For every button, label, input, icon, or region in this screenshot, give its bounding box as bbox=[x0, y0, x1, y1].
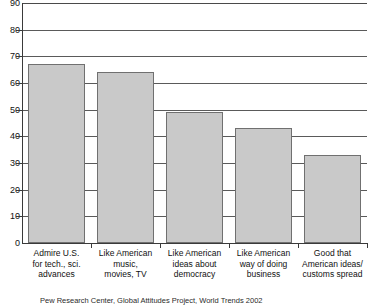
x-axis-category-label: Like Americanway of doingbusiness bbox=[229, 248, 298, 280]
x-axis-label-line: customs spread bbox=[298, 269, 367, 280]
y-axis-tick-label: 90 bbox=[2, 0, 20, 8]
y-axis-tick-mark bbox=[16, 56, 22, 57]
category-separator-tick bbox=[298, 243, 299, 248]
plot-area bbox=[22, 3, 367, 243]
x-axis-category-label: Admire U.S.for tech., sci.advances bbox=[22, 248, 91, 280]
bar-chart-figure: 0102030405060708090 Admire U.S.for tech.… bbox=[0, 0, 369, 305]
x-axis-label-line: Like American bbox=[229, 248, 298, 259]
y-axis-tick-mark bbox=[16, 163, 22, 164]
x-axis-category-label: Good thatAmerican ideas/customs spread bbox=[298, 248, 367, 280]
right-edge-tick bbox=[358, 110, 367, 111]
y-axis-line bbox=[22, 3, 23, 244]
right-edge-tick bbox=[358, 136, 367, 137]
x-axis-label-line: advances bbox=[22, 269, 91, 280]
x-axis-category-labels: Admire U.S.for tech., sci.advancesLike A… bbox=[22, 248, 367, 288]
gridline bbox=[22, 56, 367, 57]
x-axis-label-line: Like American bbox=[91, 248, 160, 259]
bar bbox=[235, 128, 292, 243]
x-axis-label-line: American ideas/ bbox=[298, 259, 367, 270]
bar bbox=[97, 72, 154, 243]
x-axis-label-line: for tech., sci. bbox=[22, 259, 91, 270]
x-axis-label-line: Like American bbox=[160, 248, 229, 259]
x-axis-label-line: way of doing bbox=[229, 259, 298, 270]
gridline bbox=[22, 3, 367, 4]
x-axis-line bbox=[22, 243, 367, 244]
x-axis-label-line: ideas about bbox=[160, 259, 229, 270]
y-axis-tick-mark bbox=[16, 110, 22, 111]
x-axis-category-label: Like Americanmusic,movies, TV bbox=[91, 248, 160, 280]
bar bbox=[28, 64, 85, 243]
x-axis-label-line: music, bbox=[91, 259, 160, 270]
source-note: Pew Research Center, Global Attitudes Pr… bbox=[40, 297, 360, 305]
y-axis-tick-mark bbox=[16, 83, 22, 84]
x-axis-label-line: Good that bbox=[298, 248, 367, 259]
y-axis-tick-label: 0 bbox=[2, 239, 20, 248]
y-axis-tick-mark bbox=[16, 216, 22, 217]
bar bbox=[304, 155, 361, 243]
category-separator-tick bbox=[160, 243, 161, 248]
x-axis-label-line: democracy bbox=[160, 269, 229, 280]
x-axis-category-label: Like Americanideas aboutdemocracy bbox=[160, 248, 229, 280]
x-axis-label-line: business bbox=[229, 269, 298, 280]
category-separator-tick bbox=[91, 243, 92, 248]
right-edge-tick bbox=[358, 30, 367, 31]
x-axis-label-line: Admire U.S. bbox=[22, 248, 91, 259]
category-separator-tick bbox=[367, 243, 368, 248]
y-axis-tick-labels: 0102030405060708090 bbox=[0, 0, 20, 305]
right-edge-tick bbox=[358, 83, 367, 84]
bar bbox=[166, 112, 223, 243]
x-axis-label-line: movies, TV bbox=[91, 269, 160, 280]
gridline bbox=[22, 30, 367, 31]
y-axis-tick-mark bbox=[16, 136, 22, 137]
right-edge-tick bbox=[358, 56, 367, 57]
y-axis-tick-mark bbox=[16, 30, 22, 31]
y-axis-tick-mark bbox=[16, 190, 22, 191]
category-separator-tick bbox=[229, 243, 230, 248]
